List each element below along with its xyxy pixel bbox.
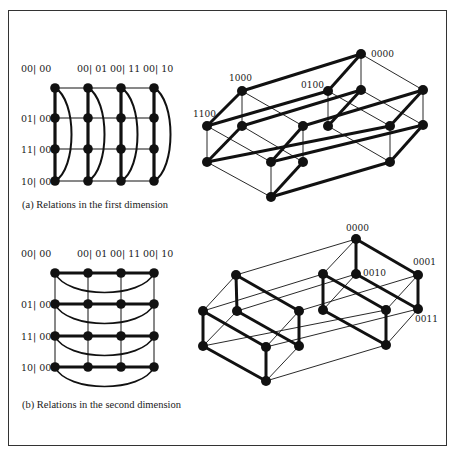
column-label: 00| 11 — [110, 248, 140, 260]
node-label: 1000 — [229, 73, 252, 83]
grid-node — [50, 331, 60, 341]
column-label: 00| 11 — [110, 63, 140, 75]
panel-b-grid-graph: 00| 0000| 0100| 1100| 1001| 0011| 0010| … — [21, 248, 173, 387]
cube-node — [298, 157, 308, 167]
cube-node — [418, 120, 428, 130]
cube-node — [237, 86, 247, 96]
cube-node — [202, 121, 212, 131]
grid-node — [83, 83, 93, 93]
grid-node — [50, 113, 60, 123]
column-label: 00| 10 — [143, 248, 173, 260]
wraparound-arc — [55, 336, 154, 356]
cube-node — [323, 86, 333, 96]
grid-node — [50, 268, 60, 278]
cube-node — [298, 121, 308, 131]
node-label: 0011 — [415, 314, 438, 324]
cube-node — [202, 157, 212, 167]
cube-node — [351, 234, 361, 244]
row-label: 01| 00 — [21, 299, 51, 311]
wraparound-arc — [55, 304, 154, 324]
panel-b-hypercube-graph: 0000001000010011 — [198, 223, 438, 386]
grid-node — [83, 299, 93, 309]
cube-node — [323, 121, 333, 131]
grid-node — [83, 113, 93, 123]
wraparound-arc — [55, 88, 72, 181]
cube-edge-thin — [361, 90, 423, 125]
wraparound-arc — [154, 88, 171, 181]
cube-node — [385, 157, 395, 167]
wraparound-arc — [121, 88, 138, 181]
cube-edge-thick — [203, 346, 266, 381]
grid-node — [50, 83, 60, 93]
row-label: 10| 00 — [21, 362, 51, 374]
cube-node — [266, 157, 276, 167]
node-label: 1100 — [193, 109, 216, 119]
node-label: 0000 — [371, 49, 394, 59]
cube-edge-thin — [386, 309, 418, 345]
cube-node — [418, 85, 428, 95]
cube-node — [232, 306, 242, 316]
grid-node — [83, 144, 93, 154]
node-label: 0100 — [301, 80, 324, 90]
wraparound-arc — [88, 88, 105, 181]
cube-node — [294, 341, 304, 351]
panel-a-hypercube-graph: 0000100001001100 — [193, 49, 428, 202]
cube-node — [261, 342, 271, 352]
grid-node — [83, 362, 93, 372]
grid-node — [83, 176, 93, 186]
node-label: 0000 — [346, 223, 369, 233]
cube-edge-thick — [323, 274, 386, 310]
grid-node — [116, 268, 126, 278]
node-label: 0001 — [413, 257, 436, 267]
grid-node — [149, 83, 159, 93]
grid-node — [149, 268, 159, 278]
panel-b-diagrams: 00| 0000| 0100| 1100| 1001| 0011| 0010| … — [21, 223, 438, 387]
grid-node — [83, 331, 93, 341]
cube-edge-thin — [266, 345, 386, 381]
cube-node — [318, 269, 328, 279]
grid-node — [149, 176, 159, 186]
grid-node — [50, 144, 60, 154]
cube-edge-thick — [236, 275, 237, 311]
cube-node — [261, 376, 271, 386]
grid-node — [83, 268, 93, 278]
cube-edge-thin — [203, 274, 323, 311]
column-label: 00| 01 — [77, 63, 107, 75]
cube-edge-thin — [207, 162, 271, 197]
node-label: 0010 — [363, 268, 386, 278]
panel-a-diagrams: 00| 0000| 0100| 1100| 1001| 0011| 0010| … — [21, 49, 428, 202]
cube-node — [381, 340, 391, 350]
cube-edge-thick — [323, 310, 386, 345]
grid-node — [116, 144, 126, 154]
wraparound-arc — [55, 273, 154, 293]
caption-a: (a) Relations in the first dimension — [22, 199, 168, 210]
row-label: 10| 00 — [21, 176, 51, 188]
panel-a-grid-graph: 00| 0000| 0100| 1100| 1001| 0011| 0010| … — [21, 63, 173, 188]
grid-node — [149, 299, 159, 309]
figure: 00| 0000| 0100| 1100| 1001| 0011| 0010| … — [0, 0, 456, 456]
grid-node — [149, 113, 159, 123]
grid-node — [50, 299, 60, 309]
grid-node — [50, 362, 60, 372]
column-label: 00| 00 — [21, 248, 51, 260]
grid-node — [116, 299, 126, 309]
grid-node — [116, 83, 126, 93]
figure-canvas: 00| 0000| 0100| 1100| 1001| 0011| 0010| … — [0, 0, 456, 456]
cube-edge-thick — [236, 275, 299, 311]
cube-edge-thin — [236, 239, 356, 275]
cube-edge-thin — [237, 274, 356, 311]
cube-edge-thin — [361, 54, 423, 90]
grid-node — [116, 331, 126, 341]
cube-node — [294, 306, 304, 316]
row-label: 11| 00 — [21, 331, 51, 343]
cube-node — [356, 49, 366, 59]
cube-node — [381, 305, 391, 315]
cube-node — [356, 85, 366, 95]
grid-node — [50, 176, 60, 186]
caption-b: (b) Relations in the second dimension — [22, 399, 181, 410]
column-label: 00| 10 — [143, 63, 173, 75]
grid-node — [116, 176, 126, 186]
cube-node — [231, 270, 241, 280]
cube-node — [351, 269, 361, 279]
cube-node — [237, 121, 247, 131]
